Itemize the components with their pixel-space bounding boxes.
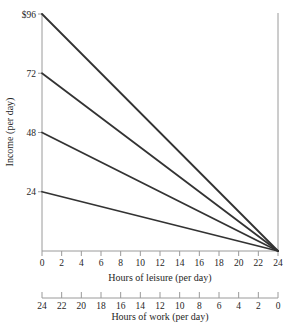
budget-line-48 <box>42 133 278 252</box>
x2-tick-label: 24 <box>37 301 47 311</box>
x-tick-label: 24 <box>273 258 283 268</box>
x2-tick-label: 0 <box>276 301 281 311</box>
x2-tick-label: 14 <box>136 301 146 311</box>
x2-tick-label: 22 <box>57 301 67 311</box>
plot-layer: $967248240246810121416182022242422201816… <box>22 10 283 312</box>
y-tick-label: 72 <box>27 69 37 79</box>
x-tick-label: 16 <box>195 258 205 268</box>
x-tick-label: 10 <box>136 258 146 268</box>
x-tick-label: 22 <box>254 258 264 268</box>
x2-tick-label: 18 <box>96 301 106 311</box>
x2-tick-label: 12 <box>155 301 165 311</box>
budget-constraint-chart: $967248240246810121416182022242422201816… <box>0 0 295 334</box>
x-tick-label: 8 <box>118 258 123 268</box>
x2-tick-label: 16 <box>116 301 126 311</box>
x-axis-title: Hours of leisure (per day) <box>108 272 211 284</box>
x-tick-label: 6 <box>99 258 104 268</box>
x2-tick-label: 20 <box>77 301 87 311</box>
budget-line-figure: $967248240246810121416182022242422201816… <box>0 0 295 334</box>
y-tick-label: 24 <box>27 187 37 197</box>
budget-line-96 <box>42 14 278 251</box>
y-tick-label: 48 <box>27 128 37 138</box>
x2-axis-title: Hours of work (per day) <box>111 311 208 323</box>
x-tick-label: 0 <box>40 258 45 268</box>
x-tick-label: 18 <box>214 258 224 268</box>
x-tick-label: 2 <box>59 258 64 268</box>
x-tick-label: 14 <box>175 258 185 268</box>
x2-tick-label: 4 <box>236 301 241 311</box>
x2-tick-label: 8 <box>197 301 202 311</box>
x-tick-label: 20 <box>234 258 244 268</box>
budget-line-24 <box>42 192 278 251</box>
x2-tick-label: 10 <box>175 301 185 311</box>
x2-tick-label: 2 <box>256 301 261 311</box>
y-axis-title: Income (per day) <box>4 98 16 167</box>
budget-line-72 <box>42 73 278 251</box>
x2-tick-label: 6 <box>217 301 222 311</box>
x-tick-label: 4 <box>79 258 84 268</box>
y-tick-label: $96 <box>22 10 37 20</box>
x-tick-label: 12 <box>155 258 165 268</box>
